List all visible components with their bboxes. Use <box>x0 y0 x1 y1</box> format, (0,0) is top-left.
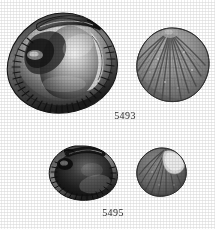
bivalve-shell-interior-icon <box>48 144 120 202</box>
specimen-bottom-right <box>136 147 188 199</box>
specimen-top-right <box>134 26 212 105</box>
bivalve-shell-exterior-icon <box>134 26 212 105</box>
specimen-top-left <box>4 10 122 116</box>
specimen-bottom-left <box>48 144 120 202</box>
specimen-plate: 5493 <box>0 0 215 229</box>
bivalve-shell-exterior-icon <box>136 147 188 199</box>
label-5495: 5495 <box>96 208 130 218</box>
bivalve-shell-interior-icon <box>4 10 122 116</box>
label-5493: 5493 <box>108 111 142 121</box>
